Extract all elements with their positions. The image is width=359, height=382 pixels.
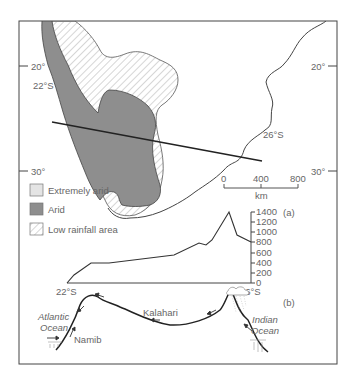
arid-region bbox=[42, 21, 161, 207]
svg-text:1000: 1000 bbox=[256, 226, 277, 237]
svg-text:800: 800 bbox=[256, 236, 272, 247]
svg-text:200: 200 bbox=[256, 267, 272, 278]
svg-text:1200: 1200 bbox=[256, 216, 277, 227]
profile-x-start: 22°S bbox=[56, 286, 77, 297]
svg-text:800: 800 bbox=[290, 173, 306, 184]
lat-label-20-left: 20° bbox=[31, 61, 46, 72]
label-indian-1: Indian bbox=[252, 314, 278, 325]
label-indian-2: Ocean bbox=[251, 325, 279, 336]
svg-text:0: 0 bbox=[221, 173, 226, 184]
legend: Extremely arid Arid Low rainfall area bbox=[30, 184, 118, 235]
label-atlantic-1: Atlantic bbox=[37, 311, 69, 322]
transect-start-label: 22°S bbox=[33, 80, 54, 91]
legend-extremely-arid: Extremely arid bbox=[48, 185, 109, 196]
panel-a-label: (a) bbox=[283, 207, 295, 218]
svg-text:400: 400 bbox=[253, 173, 269, 184]
lat-label-30-left: 30° bbox=[31, 166, 46, 177]
label-namib: Namib bbox=[74, 334, 101, 345]
figure: 20° 30° 20° 30° 22°S 26°S 0 400 800 km E… bbox=[0, 0, 359, 382]
svg-text:1400: 1400 bbox=[256, 206, 277, 217]
panel-b-label: (b) bbox=[283, 297, 295, 308]
elevation-profile-chart: 0 200 400 600 800 1000 1200 1400 (a) 22°… bbox=[56, 206, 295, 297]
transect-end-label: 26°S bbox=[263, 129, 284, 140]
label-atlantic-2: Ocean bbox=[40, 322, 68, 333]
svg-text:600: 600 bbox=[256, 247, 272, 258]
legend-low-rainfall: Low rainfall area bbox=[48, 224, 118, 235]
legend-arid: Arid bbox=[48, 204, 65, 215]
lat-label-20-right: 20° bbox=[311, 61, 326, 72]
svg-text:km: km bbox=[255, 190, 268, 201]
scale-bar: 0 400 800 km bbox=[221, 173, 306, 201]
label-kalahari: Kalahari bbox=[143, 307, 178, 318]
svg-text:400: 400 bbox=[256, 257, 272, 268]
lat-label-30-right: 30° bbox=[311, 166, 326, 177]
